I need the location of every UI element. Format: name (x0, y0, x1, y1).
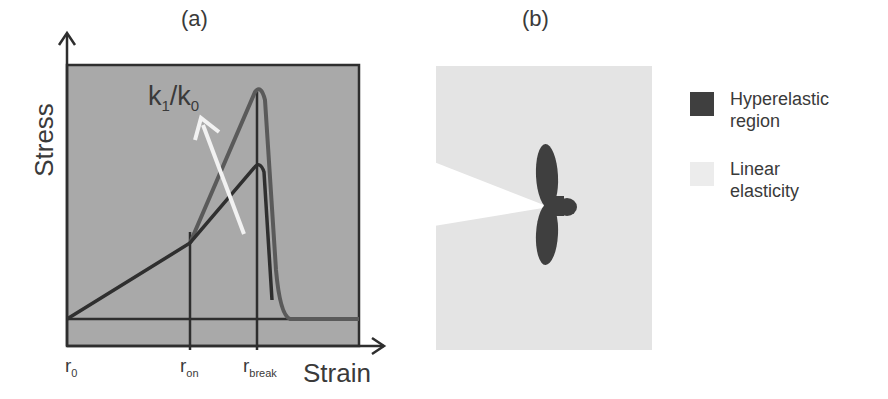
tick-r0: r0 (65, 355, 77, 379)
y-axis-label: Stress (29, 103, 59, 177)
legend-item-linear: Linear elasticity (690, 158, 840, 202)
legend-item-hyperelastic: Hyperelastic region (690, 88, 840, 132)
tick-ron: ron (180, 355, 199, 379)
legend-label-line1: Linear (730, 158, 840, 180)
legend-label-line2: region (730, 110, 840, 132)
x-axis-label: Strain (303, 358, 371, 388)
tick-rbreak: rbreak (243, 355, 277, 379)
hyperelastic-swatch (690, 92, 714, 116)
linear-swatch (690, 162, 714, 186)
simulation-panel (434, 64, 664, 354)
legend-label-line2: elasticity (730, 180, 840, 202)
stress-strain-chart: k1/k0 Stress Strain r0 ron rbreak (0, 0, 420, 399)
legend: Hyperelastic region Linear elasticity (690, 88, 840, 228)
legend-label-line1: Hyperelastic (730, 88, 840, 110)
panel-b-label: (b) (522, 6, 549, 32)
plot-area (67, 65, 359, 346)
